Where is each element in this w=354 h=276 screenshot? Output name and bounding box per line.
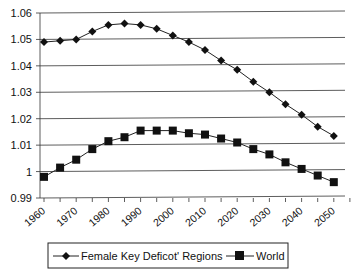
diamond-marker-icon [121,20,129,28]
square-marker-icon [169,127,177,135]
x-tick-label: 2000 [150,204,176,228]
y-tick-label: 0.99 [11,192,32,204]
square-marker-icon [314,172,322,180]
x-tick-label: 1990 [118,204,144,228]
square-marker-icon [40,173,48,181]
y-tick-label: 1.02 [11,113,32,125]
diamond-marker-icon [282,100,290,108]
y-tick-label: 1.05 [11,33,32,45]
diamond-marker-icon [330,132,338,140]
square-marker-icon [265,150,273,158]
diamond-marker-icon [233,66,241,74]
square-marker-icon [249,145,257,153]
square-marker-icon [185,129,193,137]
square-marker-icon [298,165,306,173]
y-tick-label: 1.01 [11,139,32,151]
diamond-marker-icon [88,28,96,36]
square-marker-icon [282,158,290,166]
y-tick-label: 1.06 [11,7,32,19]
line-chart: 0.9911.011.021.031.041.051.06 1960197019… [0,0,354,276]
x-tick-label: 2040 [279,204,305,228]
diamond-marker-icon [153,25,161,33]
square-marker-icon [233,139,241,147]
diamond-marker-icon [56,37,64,45]
square-marker-icon [72,156,80,164]
diamond-marker-icon [249,78,257,86]
diamond-marker-icon [72,35,80,43]
x-tick-label: 1970 [54,204,80,228]
y-tick-label: 1 [26,166,32,178]
y-tick-label: 1.03 [11,86,32,98]
x-tick-label: 2030 [247,204,273,228]
x-tick-label: 2010 [183,204,209,228]
square-marker-icon [104,137,112,145]
x-tick-label: 2050 [311,204,337,228]
y-tick-label: 1.04 [11,60,32,72]
y-axis: 0.9911.011.021.031.041.051.06 [11,7,40,204]
square-marker-icon [153,127,161,135]
series-lines [40,20,338,187]
x-tick-label: 2020 [215,204,241,228]
square-marker-icon [56,164,64,172]
square-marker-icon [88,145,96,153]
diamond-marker-icon [217,57,225,65]
legend-label-world: World [256,250,285,262]
square-marker-icon [121,133,129,141]
square-marker-icon [137,127,145,135]
diamond-marker-icon [201,46,209,54]
legend-label-female: Female Key Deficot' Regions [81,250,223,262]
x-tick-label: 1980 [86,204,112,228]
diamond-marker-icon [185,38,193,46]
diamond-marker-icon [298,111,306,119]
x-tick-label: 1960 [22,204,48,228]
diamond-marker-icon [314,123,322,131]
square-marker-icon [217,135,225,143]
diamond-marker-icon [104,21,112,29]
square-marker-icon [201,131,209,139]
square-marker-icon [235,251,244,260]
diamond-marker-icon [137,21,145,29]
diamond-marker-icon [265,88,273,96]
legend: Female Key Deficot' Regions World [48,243,288,268]
x-axis: 1960197019801990200020102020203020402050 [22,198,350,229]
square-marker-icon [330,178,338,186]
